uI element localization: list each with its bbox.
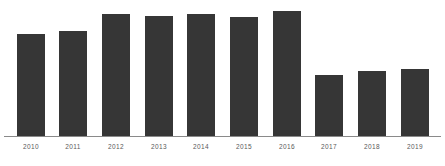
plot-area — [0, 0, 445, 137]
bar-chart: 2010201120122013201420152016201720182019 — [0, 0, 445, 166]
bar-rect — [102, 14, 130, 137]
bar-2013 — [145, 16, 173, 137]
bar-rect — [401, 69, 429, 137]
x-tick-label: 2010 — [11, 142, 51, 152]
bar-rect — [358, 71, 386, 137]
bar-2015 — [230, 17, 258, 137]
x-tick-label: 2017 — [309, 142, 349, 152]
bar-rect — [230, 17, 258, 137]
bar-2019 — [401, 69, 429, 137]
bar-2010 — [17, 34, 45, 137]
bar-rect — [145, 16, 173, 137]
bar-2016 — [273, 11, 301, 137]
bar-rect — [273, 11, 301, 137]
bar-2014 — [187, 14, 215, 137]
x-tick-label: 2016 — [267, 142, 307, 152]
bar-2017 — [315, 75, 343, 137]
bar-rect — [17, 34, 45, 137]
x-tick-label: 2013 — [139, 142, 179, 152]
x-tick-label: 2019 — [395, 142, 435, 152]
bar-2012 — [102, 14, 130, 137]
bar-rect — [315, 75, 343, 137]
x-axis-line — [4, 136, 441, 137]
bar-2018 — [358, 71, 386, 137]
bar-rect — [59, 31, 87, 137]
x-tick-label: 2014 — [181, 142, 221, 152]
x-tick-label: 2015 — [224, 142, 264, 152]
bar-rect — [187, 14, 215, 137]
x-tick-label: 2011 — [53, 142, 93, 152]
x-tick-label: 2018 — [352, 142, 392, 152]
x-axis-tick-labels: 2010201120122013201420152016201720182019 — [0, 142, 445, 158]
bar-2011 — [59, 31, 87, 137]
x-tick-label: 2012 — [96, 142, 136, 152]
